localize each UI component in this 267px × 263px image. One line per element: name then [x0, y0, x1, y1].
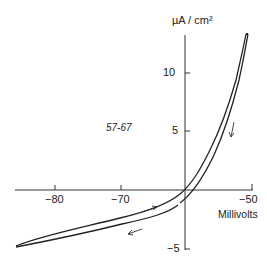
annotation-label: 57-67 — [106, 122, 132, 133]
x-tick-label-m70: −70 — [111, 193, 130, 205]
x-axis-label: Millivolts — [218, 208, 258, 220]
y-axis-label: µA / cm² — [172, 14, 213, 26]
y-tick-label-5: 5 — [172, 124, 178, 136]
arrow-left-icon — [128, 229, 142, 235]
iv-curve-figure: µA / cm² 57-67 10 5 −5 −80 −70 −50 Milli… — [0, 0, 267, 263]
y-tick-label-10: 10 — [163, 66, 175, 78]
forward-sweep-curve — [16, 34, 246, 246]
y-tick-label-m5: −5 — [167, 242, 180, 254]
x-tick-label-m80: −80 — [45, 193, 64, 205]
chart-canvas — [0, 0, 267, 263]
arrow-down-icon — [229, 122, 234, 137]
x-tick-label-m50: −50 — [239, 193, 258, 205]
